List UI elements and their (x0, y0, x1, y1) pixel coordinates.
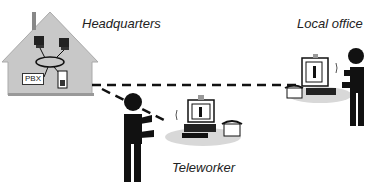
local-office-person-icon (342, 48, 364, 126)
local-phone-icon (285, 86, 303, 99)
local-office-workstation (285, 54, 352, 103)
local-office-label: Local office (297, 16, 363, 31)
teleworker-phone-icon (222, 121, 242, 136)
teleworker-label: Teleworker (172, 160, 235, 175)
teleworker-person-icon (124, 93, 154, 182)
headquarters-label: Headquarters (82, 16, 161, 31)
pbx-label: PBX (22, 73, 44, 85)
hq-server-icon (58, 71, 67, 88)
teleworker-workstation (165, 95, 242, 146)
